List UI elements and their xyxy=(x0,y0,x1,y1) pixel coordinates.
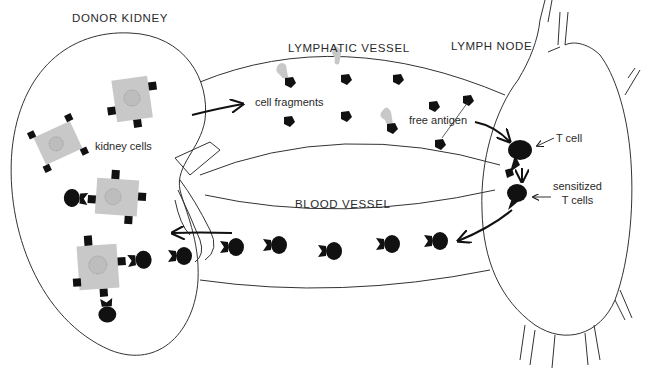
arrow-node-to-blood xyxy=(458,210,512,241)
free-antigens xyxy=(284,74,474,150)
lymphatic-vessel-label: LYMPHATIC VESSEL xyxy=(288,43,410,55)
kidney-hilum xyxy=(175,142,220,262)
immune-rejection-diagram xyxy=(0,0,646,371)
flow-arrows xyxy=(172,104,522,241)
circulating-t-cells xyxy=(168,232,448,265)
kidney-cell-3 xyxy=(62,166,147,225)
t-cell-label: T cell xyxy=(556,133,582,144)
lymph-node-label: LYMPH NODE xyxy=(451,41,532,53)
sensitized-line2: T cells xyxy=(553,195,602,206)
donor-kidney-label: DONOR KIDNEY xyxy=(72,13,168,25)
blood-vessel-label: BLOOD VESSEL xyxy=(295,199,390,211)
cell-fragments-label: cell fragments xyxy=(255,97,323,108)
sensitized-t-cells-label: sensitized T cells xyxy=(553,181,602,206)
free-antigen-label: free antigen xyxy=(409,115,467,126)
sensitized-line1: sensitized xyxy=(553,181,602,192)
t-cell-in-node xyxy=(505,140,532,178)
kidney-cell-1 xyxy=(103,75,161,132)
arrow-kidney-to-fragments xyxy=(192,104,243,115)
kidney-cell-4 xyxy=(70,231,156,324)
arrow-blood-to-kidney xyxy=(172,233,232,234)
kidney-cell-2 xyxy=(27,113,89,173)
label-pointers xyxy=(533,138,554,197)
sensitized-t-cell xyxy=(507,184,527,210)
kidney-cells-label: kidney cells xyxy=(95,141,152,152)
